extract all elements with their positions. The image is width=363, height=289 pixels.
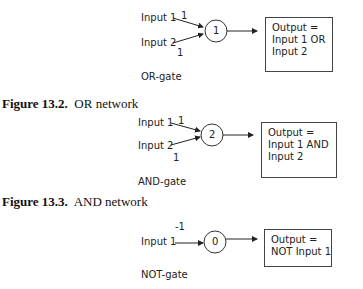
caption-text: AND network: [74, 194, 148, 209]
or-output-line-3: Input 2: [272, 46, 326, 58]
or-weight1: 1: [181, 10, 187, 22]
and-gate-label: AND-gate: [138, 176, 186, 188]
not-weight1: -1: [175, 221, 185, 233]
or-output-box: Output = Input 1 OR Input 2: [265, 17, 333, 72]
and-output-line-3: Input 2: [268, 151, 330, 163]
and-input2-label: Input 2: [138, 140, 173, 152]
caption-number: Figure 13.3.: [2, 194, 68, 209]
and-input1-label: Input 1: [138, 117, 173, 129]
or-weight2: 1: [177, 47, 183, 59]
and-output-line-2: Input 1 AND: [268, 139, 330, 151]
and-weight1: 1: [178, 115, 184, 127]
or-input2-label: Input 2: [141, 37, 176, 49]
or-gate-label: OR-gate: [141, 71, 182, 83]
or-output-line-2: Input 1 OR: [272, 34, 326, 46]
and-figure-caption: Figure 13.3. AND network: [2, 194, 148, 210]
or-input1-label: Input 1: [141, 12, 176, 24]
or-output-line-1: Output =: [272, 22, 326, 34]
or-figure-caption: Figure 13.2. OR network: [2, 96, 138, 112]
not-threshold: 0: [212, 236, 218, 248]
and-output-line-1: Output =: [268, 127, 330, 139]
or-threshold: 1: [213, 25, 219, 37]
and-threshold: 2: [209, 129, 215, 141]
not-output-box: Output = NOT Input 1: [264, 229, 332, 267]
and-weight2: 1: [173, 152, 179, 164]
caption-text: OR network: [74, 96, 138, 111]
not-output-line-1: Output =: [271, 234, 325, 246]
and-output-box: Output = Input 1 AND Input 2: [261, 122, 337, 178]
not-gate-label: NOT-gate: [141, 269, 188, 281]
not-input1-label: Input 1: [141, 236, 176, 248]
not-output-line-2: NOT Input 1: [271, 246, 325, 258]
caption-number: Figure 13.2.: [2, 96, 68, 111]
